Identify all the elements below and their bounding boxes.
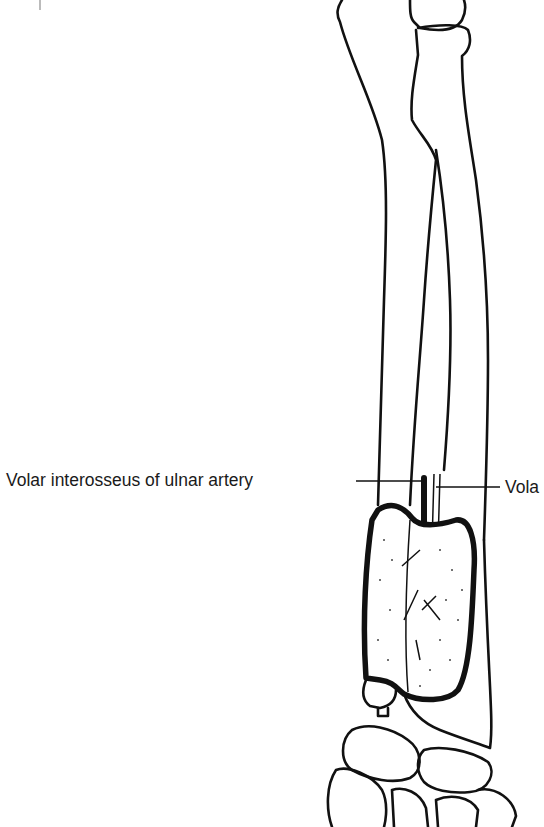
radius-medial-edge — [436, 150, 451, 470]
carpal-trapezoid — [436, 797, 478, 827]
ulna-inner-edge — [410, 30, 436, 505]
label-volar-truncated: Vola — [505, 479, 539, 497]
radius-neck — [418, 25, 488, 540]
forearm-diagram — [0, 0, 544, 827]
carpal-lunate — [343, 726, 420, 780]
ulna-outline — [338, 0, 386, 505]
carpal-trapezium — [478, 789, 516, 827]
carpal-hamate — [328, 769, 386, 827]
label-volar-interosseus-ulnar-artery: Volar interosseus of ulnar artery — [6, 472, 253, 490]
carpal-capitate — [392, 789, 428, 827]
carpal-scaphoid — [418, 748, 491, 792]
bone-graft-window — [364, 506, 474, 700]
